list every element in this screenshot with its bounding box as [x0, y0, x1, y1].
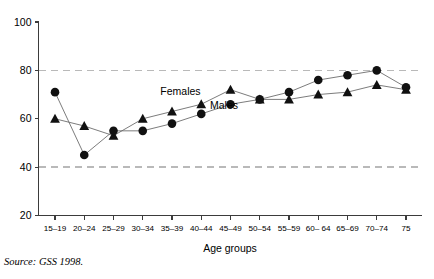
- series-line-males: [55, 70, 406, 155]
- x-tick-label-12: 75: [401, 224, 411, 233]
- chart-container: 20406080100 FemalesMales 15–1920–2425–29…: [0, 0, 434, 279]
- marker-males-8: [285, 88, 294, 97]
- source-note: Source: GSS 1998.: [4, 256, 83, 267]
- marker-males-7: [255, 95, 264, 104]
- marker-females-11: [372, 80, 382, 89]
- source-text: : GSS 1998.: [33, 256, 83, 267]
- y-tick-label-20: 20: [20, 209, 32, 221]
- x-axis-title: Age groups: [203, 242, 257, 254]
- x-axis-ticks: [55, 216, 406, 220]
- y-tick-label-100: 100: [14, 16, 32, 28]
- x-tick-label-10: 65–69: [336, 224, 359, 233]
- marker-females-6: [226, 85, 236, 94]
- marker-males-9: [314, 76, 323, 85]
- series-markers-group: [50, 66, 411, 159]
- source-label: Source: [4, 256, 33, 267]
- marker-males-1: [80, 151, 89, 160]
- marker-males-10: [343, 71, 352, 80]
- series-label-females: Females: [160, 85, 200, 97]
- x-tick-label-6: 45–49: [219, 224, 242, 233]
- line-chart: 20406080100 FemalesMales 15–1920–2425–29…: [0, 0, 434, 279]
- gridlines-group: [39, 70, 423, 167]
- y-tick-label-80: 80: [20, 64, 32, 76]
- series-label-males: Males: [210, 99, 238, 111]
- series-lines-group: [55, 70, 406, 155]
- marker-females-0: [50, 114, 60, 123]
- marker-females-5: [196, 99, 206, 108]
- x-tick-label-0: 15–19: [44, 224, 67, 233]
- marker-males-3: [138, 127, 147, 136]
- axes-group: [39, 22, 423, 216]
- x-tick-label-2: 25–29: [102, 224, 125, 233]
- x-tick-label-7: 50–54: [248, 224, 271, 233]
- x-tick-label-1: 20–24: [73, 224, 96, 233]
- x-tick-label-8: 55–59: [278, 224, 301, 233]
- marker-males-0: [51, 88, 60, 97]
- x-tick-label-11: 70–74: [365, 224, 388, 233]
- y-tick-label-40: 40: [20, 161, 32, 173]
- y-tick-label-60: 60: [20, 112, 32, 124]
- y-axis-ticks: 20406080100: [14, 16, 39, 222]
- marker-males-12: [402, 83, 411, 92]
- marker-males-2: [109, 127, 118, 136]
- x-tick-label-9: 60– 64: [306, 224, 331, 233]
- x-axis-tick-labels: 15–1920–2425–2930–3435–3940–4445–4950–54…: [44, 224, 411, 233]
- x-tick-label-4: 35–39: [161, 224, 184, 233]
- x-tick-label-3: 30–34: [131, 224, 154, 233]
- marker-males-4: [168, 119, 177, 128]
- marker-males-11: [372, 66, 381, 75]
- x-tick-label-5: 40–44: [190, 224, 213, 233]
- marker-males-5: [197, 110, 206, 119]
